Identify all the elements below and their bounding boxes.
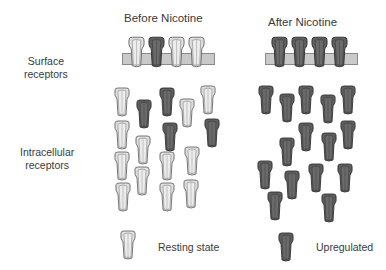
receptor-upregulated-icon	[320, 193, 338, 223]
receptor-upregulated-icon	[158, 87, 176, 117]
intracellular-receptors-label: Intracellular receptors	[20, 146, 74, 172]
receptor-upregulated-icon	[161, 122, 179, 152]
receptor-resting-icon	[134, 135, 152, 165]
receptor-resting-icon	[113, 87, 131, 117]
receptor-upregulated-icon	[278, 93, 296, 123]
receptor-resting-icon	[113, 151, 131, 181]
receptor-upregulated-icon	[135, 99, 153, 129]
legend-resting-label: Resting state	[158, 241, 219, 253]
receptor-resting-icon	[182, 179, 200, 209]
receptor-upregulated-icon	[283, 170, 301, 200]
receptor-resting-icon	[133, 166, 151, 196]
receptor-upregulated-icon	[339, 85, 357, 115]
legend-upregulated-icon	[277, 231, 295, 263]
receptor-upregulated-icon	[339, 120, 357, 150]
receptor-resting-icon	[178, 98, 196, 128]
surface-receptors-label: Surface receptors	[24, 55, 68, 81]
receptor-resting-icon	[158, 182, 176, 212]
receptor-upregulated-icon	[256, 160, 274, 190]
receptor-upregulated-icon	[319, 94, 337, 124]
intracellular-label-line2: receptors	[20, 159, 74, 172]
legend-resting-icon	[119, 229, 137, 261]
receptor-upregulated-icon	[266, 191, 284, 221]
receptor-resting-icon	[127, 36, 146, 68]
receptor-upregulated-icon	[257, 85, 275, 115]
receptor-resting-icon	[187, 36, 206, 68]
surface-label-line2: receptors	[24, 68, 68, 81]
legend-upregulated-label: Upregulated	[316, 241, 373, 253]
before-nicotine-header: Before Nicotine	[124, 12, 203, 24]
receptor-upregulated-icon	[297, 85, 315, 115]
receptor-upregulated-icon	[290, 36, 309, 68]
receptor-resting-icon	[199, 85, 217, 115]
after-nicotine-header: After Nicotine	[268, 16, 337, 28]
surface-label-line1: Surface	[24, 55, 68, 68]
intracellular-label-line1: Intracellular	[20, 146, 74, 159]
receptor-upregulated-icon	[147, 36, 166, 68]
receptor-upregulated-icon	[297, 122, 315, 152]
receptor-upregulated-icon	[320, 132, 338, 162]
receptor-upregulated-icon	[336, 163, 354, 193]
receptor-resting-icon	[113, 120, 131, 150]
receptor-resting-icon	[183, 146, 201, 176]
receptor-resting-icon	[114, 182, 132, 212]
receptor-upregulated-icon	[278, 137, 296, 167]
receptor-upregulated-icon	[307, 163, 325, 193]
receptor-upregulated-icon	[330, 36, 349, 68]
receptor-upregulated-icon	[203, 118, 221, 148]
receptor-upregulated-icon	[310, 36, 329, 68]
receptor-resting-icon	[167, 36, 186, 68]
receptor-upregulated-icon	[270, 36, 289, 68]
receptor-resting-icon	[158, 151, 176, 181]
